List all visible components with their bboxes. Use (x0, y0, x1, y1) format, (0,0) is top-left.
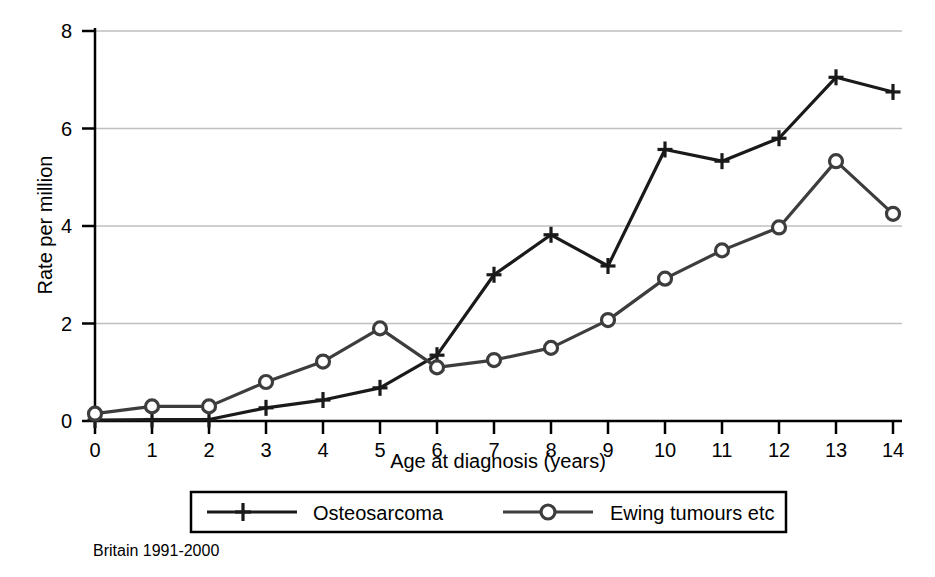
x-tick-label-5: 5 (374, 439, 385, 461)
data-point-marker (431, 361, 444, 374)
y-tick-label-4: 4 (61, 215, 72, 237)
data-point-marker (89, 407, 102, 420)
data-point-marker (716, 244, 729, 257)
x-tick-label-0: 0 (89, 439, 100, 461)
data-point-marker (374, 322, 387, 335)
legend-item-osteosarcoma[interactable]: Osteosarcoma (207, 502, 444, 524)
data-point-marker (260, 376, 273, 389)
line-chart-svg: 02468 01234567891011121314 Rate per mill… (0, 0, 935, 577)
data-point-marker (773, 221, 786, 234)
data-point-marker (830, 155, 843, 168)
legend-label-osteosarcoma: Osteosarcoma (313, 502, 444, 524)
chart-caption: Britain 1991-2000 (93, 542, 219, 559)
data-point-marker (887, 207, 900, 220)
data-point-marker (545, 341, 558, 354)
x-tick-label-12: 12 (768, 439, 790, 461)
legend: Osteosarcoma Ewing tumours etc (191, 492, 786, 532)
x-tick-label-2: 2 (203, 439, 214, 461)
x-tick-label-3: 3 (260, 439, 271, 461)
y-tick-label-6: 6 (61, 118, 72, 140)
data-point-marker (602, 314, 615, 327)
x-tick-label-13: 13 (825, 439, 847, 461)
x-tick-label-11: 11 (712, 439, 733, 461)
y-tick-label-8: 8 (61, 20, 72, 42)
data-point-marker (146, 400, 159, 413)
x-tick-label-10: 10 (654, 439, 676, 461)
y-tick-label-0: 0 (61, 410, 72, 432)
x-axis-title: Age at diagnosis (years) (390, 450, 606, 472)
x-tick-label-4: 4 (317, 439, 328, 461)
data-point-marker (203, 400, 216, 413)
data-point-marker (488, 354, 501, 367)
chart-container: 02468 01234567891011121314 Rate per mill… (0, 0, 935, 577)
chart-background (0, 0, 935, 577)
x-tick-label-1: 1 (146, 439, 157, 461)
data-point-marker (317, 355, 330, 368)
data-point-marker (659, 272, 672, 285)
y-axis-title: Rate per million (34, 156, 56, 295)
legend-label-ewing: Ewing tumours etc (610, 502, 775, 524)
x-tick-label-14: 14 (882, 439, 904, 461)
y-tick-label-2: 2 (61, 313, 72, 335)
circle-icon (541, 505, 555, 519)
